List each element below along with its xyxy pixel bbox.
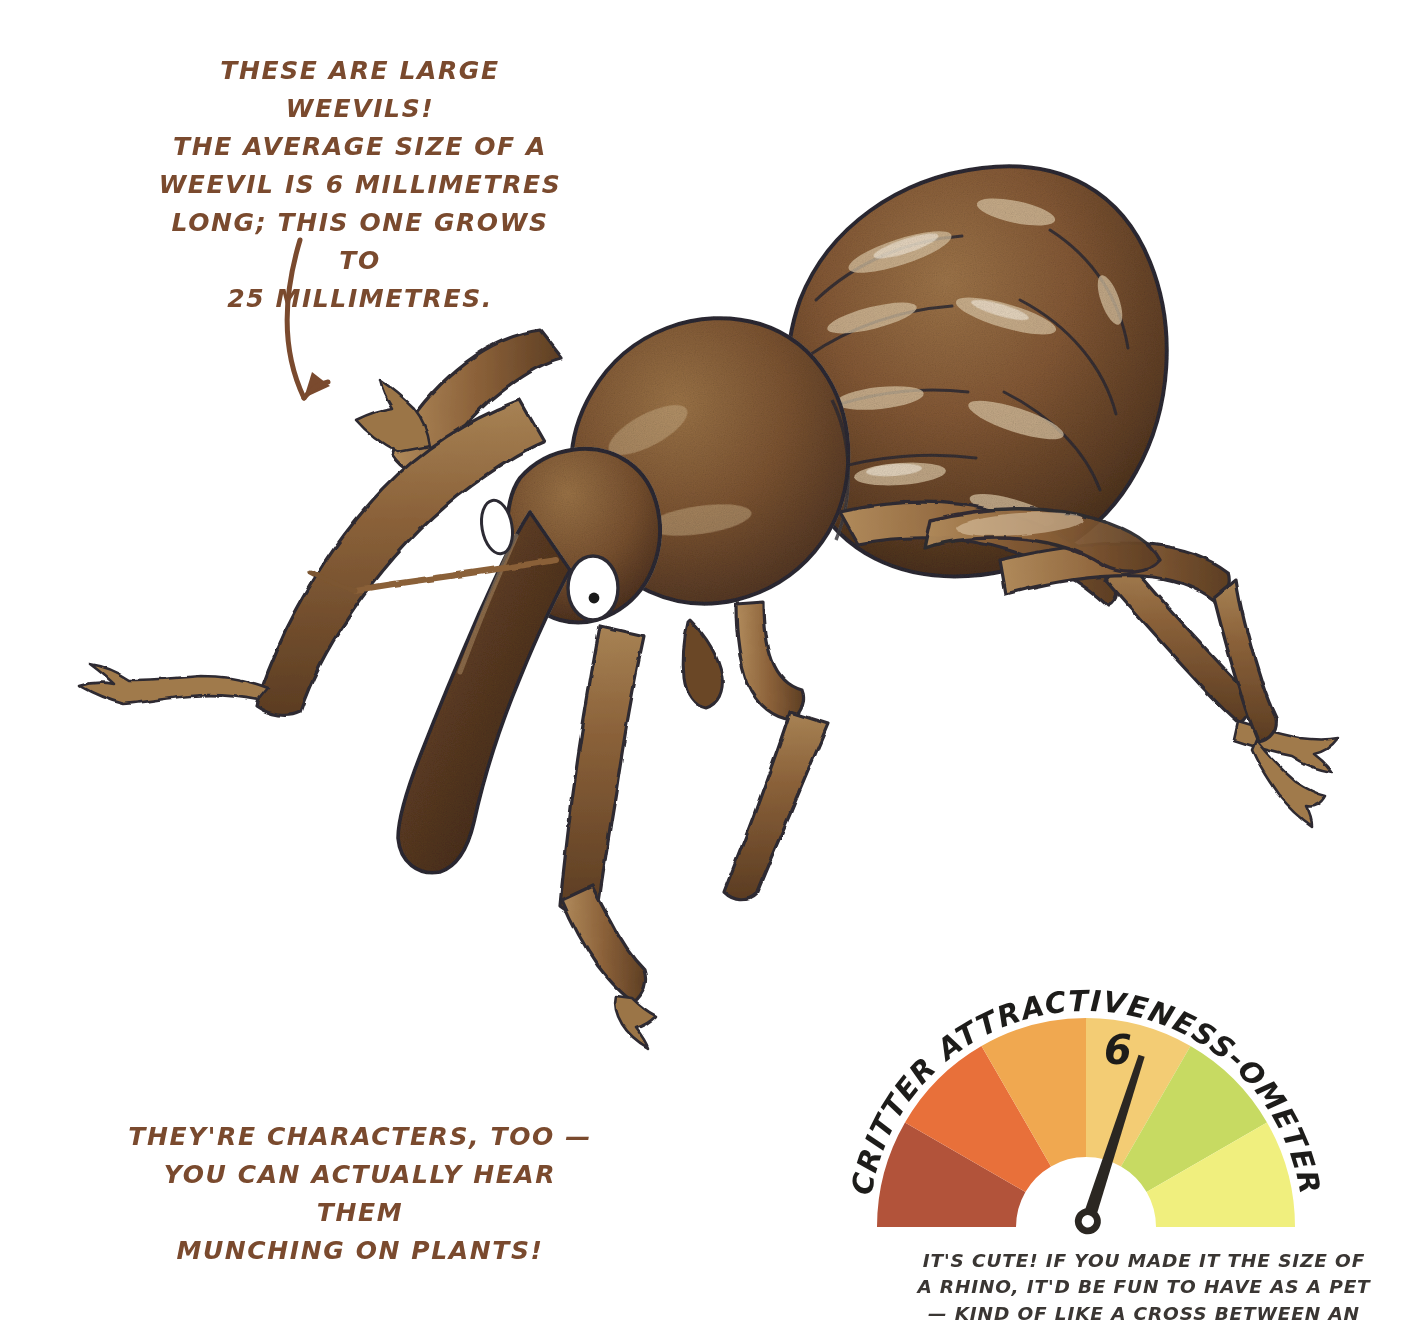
gauge-caption: IT'S CUTE! IF YOU MADE IT THE SIZE OF A … [868, 1248, 1416, 1321]
gauge-value-label: 6 [1104, 1027, 1132, 1073]
illustration-page: THESE ARE LARGE WEEVILS! THE AVERAGE SIZ… [0, 0, 1416, 1321]
critter-attractiveness-gauge: 6 CRITTER ATTRACTIVENESS-OMETER [0, 0, 1416, 1321]
